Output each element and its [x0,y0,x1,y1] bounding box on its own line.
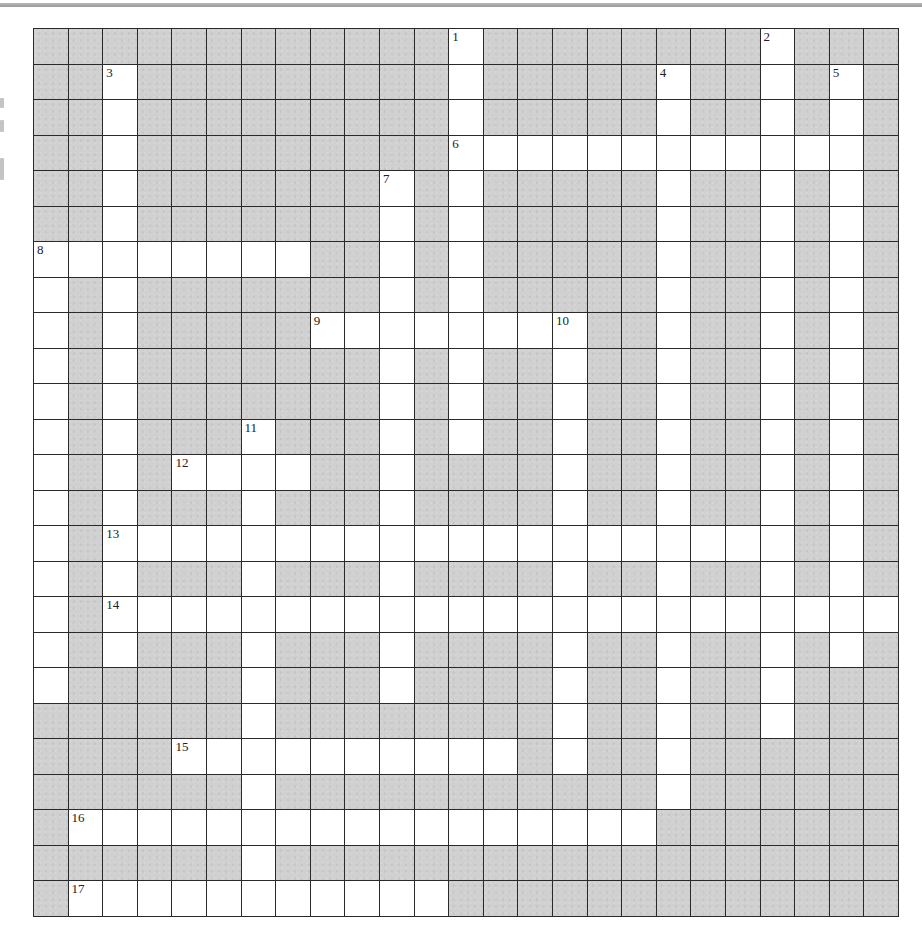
answer-cell[interactable] [103,171,137,206]
answer-cell[interactable] [242,491,276,526]
answer-cell[interactable] [34,597,68,632]
answer-cell[interactable] [242,242,276,277]
answer-cell[interactable] [553,384,587,419]
answer-cell[interactable] [276,455,310,490]
answer-cell[interactable] [172,242,206,277]
answer-cell[interactable] [207,242,241,277]
answer-cell[interactable] [484,597,518,632]
answer-cell[interactable] [830,278,864,313]
answer-cell[interactable] [380,597,414,632]
answer-cell[interactable]: 4 [657,65,691,100]
answer-cell[interactable] [69,242,103,277]
answer-cell[interactable] [242,633,276,668]
answer-cell[interactable] [449,526,483,561]
answer-cell[interactable] [380,349,414,384]
answer-cell[interactable] [172,881,206,916]
answer-cell[interactable] [795,136,829,171]
answer-cell[interactable] [449,349,483,384]
answer-cell[interactable] [761,526,795,561]
answer-cell[interactable] [34,562,68,597]
answer-cell[interactable] [553,455,587,490]
answer-cell[interactable] [691,526,725,561]
answer-cell[interactable] [311,881,345,916]
answer-cell[interactable] [657,136,691,171]
answer-cell[interactable] [657,349,691,384]
answer-cell[interactable] [311,526,345,561]
answer-cell[interactable] [761,420,795,455]
answer-cell[interactable] [761,313,795,348]
answer-cell[interactable] [657,455,691,490]
answer-cell[interactable] [518,313,552,348]
answer-cell[interactable] [553,668,587,703]
answer-cell[interactable] [311,597,345,632]
answer-cell[interactable] [242,704,276,739]
answer-cell[interactable] [103,313,137,348]
answer-cell[interactable] [761,704,795,739]
answer-cell[interactable] [138,881,172,916]
answer-cell[interactable] [553,810,587,845]
answer-cell[interactable] [449,242,483,277]
answer-cell[interactable]: 12 [172,455,206,490]
answer-cell[interactable] [276,881,310,916]
answer-cell[interactable] [103,562,137,597]
answer-cell[interactable]: 17 [69,881,103,916]
answer-cell[interactable] [830,420,864,455]
answer-cell[interactable] [276,526,310,561]
answer-cell[interactable] [380,633,414,668]
answer-cell[interactable] [830,491,864,526]
answer-cell[interactable] [380,278,414,313]
answer-cell[interactable] [103,633,137,668]
answer-cell[interactable] [207,455,241,490]
answer-cell[interactable] [138,242,172,277]
answer-cell[interactable] [242,846,276,881]
answer-cell[interactable] [415,597,449,632]
answer-cell[interactable] [484,313,518,348]
answer-cell[interactable]: 13 [103,526,137,561]
answer-cell[interactable]: 2 [761,29,795,64]
answer-cell[interactable]: 14 [103,597,137,632]
answer-cell[interactable] [761,278,795,313]
answer-cell[interactable] [830,136,864,171]
answer-cell[interactable] [553,349,587,384]
answer-cell[interactable] [761,171,795,206]
answer-cell[interactable] [449,420,483,455]
answer-cell[interactable] [207,881,241,916]
answer-cell[interactable] [380,491,414,526]
answer-cell[interactable] [830,526,864,561]
answer-cell[interactable] [761,136,795,171]
answer-cell[interactable] [484,739,518,774]
answer-cell[interactable] [830,242,864,277]
answer-cell[interactable] [449,313,483,348]
answer-cell[interactable] [34,384,68,419]
answer-cell[interactable] [657,278,691,313]
answer-cell[interactable] [380,562,414,597]
answer-cell[interactable] [276,810,310,845]
answer-cell[interactable] [622,136,656,171]
answer-cell[interactable] [34,455,68,490]
answer-cell[interactable] [276,242,310,277]
answer-cell[interactable]: 16 [69,810,103,845]
answer-cell[interactable] [622,526,656,561]
answer-cell[interactable] [761,455,795,490]
answer-cell[interactable] [657,704,691,739]
answer-cell[interactable]: 9 [311,313,345,348]
answer-cell[interactable] [380,384,414,419]
answer-cell[interactable] [415,810,449,845]
answer-cell[interactable] [34,420,68,455]
answer-cell[interactable] [207,739,241,774]
answer-cell[interactable] [276,739,310,774]
answer-cell[interactable] [657,739,691,774]
answer-cell[interactable] [657,313,691,348]
answer-cell[interactable] [311,810,345,845]
answer-cell[interactable] [242,775,276,810]
answer-cell[interactable] [103,278,137,313]
answer-cell[interactable] [830,384,864,419]
answer-cell[interactable] [761,207,795,242]
answer-cell[interactable] [311,739,345,774]
answer-cell[interactable] [830,633,864,668]
answer-cell[interactable]: 15 [172,739,206,774]
answer-cell[interactable] [172,526,206,561]
answer-cell[interactable] [518,597,552,632]
answer-cell[interactable] [657,171,691,206]
answer-cell[interactable]: 3 [103,65,137,100]
